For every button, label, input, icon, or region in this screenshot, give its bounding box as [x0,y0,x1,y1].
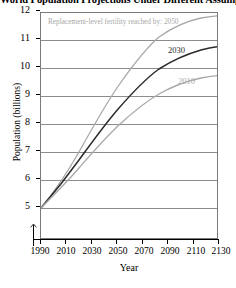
series-label-2030: 2030 [168,46,185,55]
x-tick-mark-2010 [65,239,66,244]
x-tick-mark-2030 [91,239,92,244]
series-label-2010: 2010 [178,77,195,86]
x-tick-mark-2070 [142,239,143,244]
y-axis-arrow-icon [30,224,37,231]
x-tick-mark-2050 [116,239,117,244]
population-projection-chart: World Population Projections Under Diffe… [0,0,236,288]
y-tick-label-12: 12 [0,5,30,15]
chart-title: World Population Projections Under Diffe… [0,0,236,6]
x-tick-mark-2110 [193,239,194,244]
y-axis-title: Population (billions) [12,52,22,192]
y-tick-label-5: 5 [0,201,30,211]
x-tick-mark-2090 [167,239,168,244]
plot-area: Replacement-level fertility reached by: … [40,12,218,239]
series-line-2050 [41,16,218,208]
x-tick-mark-2130 [218,239,219,244]
series-curves [41,13,218,239]
x-tick-mark-1990 [40,239,41,244]
x-axis-line [33,239,218,240]
x-tick-label-2130: 2130 [204,246,236,256]
x-axis-title: Year [40,262,218,273]
replacement-level-annotation: Replacement-level fertility reached by: … [48,18,178,26]
y-tick-mark-12 [36,10,40,11]
y-tick-label-11: 11 [0,33,30,43]
